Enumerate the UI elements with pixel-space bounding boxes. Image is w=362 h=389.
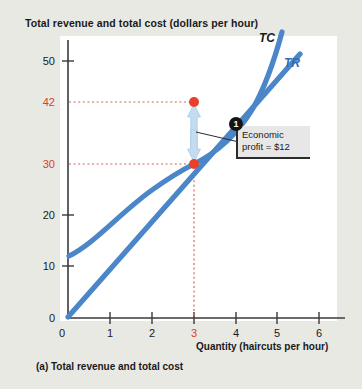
- x-tick-label-2: 2: [149, 327, 155, 339]
- y-tick-label-20: 20: [43, 209, 55, 221]
- series-tr-line: [68, 54, 300, 317]
- x-tick-label-6: 6: [316, 327, 322, 339]
- chart-plot-area: 50 42 30 20 10 0 0 1 2 3 4 5 6: [0, 0, 362, 389]
- figure-panel: Total revenue and total cost (dollars pe…: [0, 0, 362, 389]
- x-tick-label-1: 1: [107, 327, 113, 339]
- series-label-tr: TR: [284, 56, 300, 70]
- y-tick-label-50: 50: [43, 55, 55, 67]
- callout-line-1: Economic: [242, 129, 306, 141]
- figure-caption: (a) Total revenue and total cost: [36, 361, 183, 372]
- y-tick-label-30: 30: [43, 158, 55, 170]
- economic-profit-callout: Economic profit = $12: [236, 126, 310, 159]
- marker-tr-point: [189, 97, 199, 107]
- x-tick-label-5: 5: [274, 327, 280, 339]
- y-tick-label-10: 10: [43, 260, 55, 272]
- x-axis-label: Quantity (haircuts per hour): [196, 341, 328, 352]
- guide-lines: [69, 102, 194, 318]
- x-tick-label-3: 3: [191, 327, 197, 339]
- annotation-badge-1: 1: [229, 117, 243, 131]
- series-label-tc: TC: [259, 31, 275, 45]
- callout-line-2: profit = $12: [242, 141, 306, 153]
- x-tick-label-0: 0: [59, 327, 65, 339]
- x-tick-label-4: 4: [233, 327, 239, 339]
- marker-tc-point: [189, 159, 199, 169]
- y-tick-label-42: 42: [43, 96, 55, 108]
- y-tick-label-0: 0: [49, 312, 55, 324]
